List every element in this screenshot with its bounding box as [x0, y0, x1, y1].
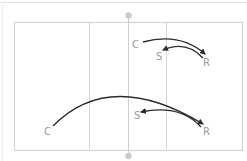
player-label-r-top: R: [203, 57, 210, 68]
net-pole-top-icon: [125, 12, 131, 18]
player-label-s-top: S: [156, 51, 162, 62]
diagram-frame: C S R C S R: [0, 0, 247, 161]
player-label-r-bottom: R: [203, 126, 210, 137]
player-label-c-top: C: [132, 39, 139, 50]
arrow-r-to-s-bottom: [141, 110, 201, 127]
player-label-s-bottom: S: [134, 110, 140, 121]
volleyball-court-diagram: C S R C S R: [0, 0, 247, 161]
player-label-c-bottom: C: [44, 126, 51, 137]
net-pole-bottom-icon: [125, 153, 131, 159]
